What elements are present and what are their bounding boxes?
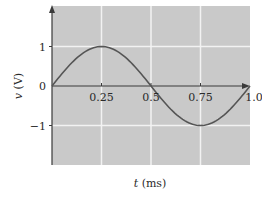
x-tick-label: 0.5 bbox=[142, 91, 160, 104]
y-tick-label: 1 bbox=[39, 41, 46, 54]
x-tick-label: 0.75 bbox=[188, 91, 213, 104]
y-tick-label: −1 bbox=[30, 120, 46, 133]
y-tick-labels: 10−1 bbox=[30, 41, 46, 133]
y-axis-label: v (V) bbox=[12, 73, 25, 99]
x-tick-label: 0.25 bbox=[89, 91, 114, 104]
y-tick-label: 0 bbox=[39, 80, 46, 93]
x-tick-label: 1.0 bbox=[245, 91, 262, 104]
sine-wave-chart: 10−1 0.250.50.751.0 v (V) t (ms) bbox=[0, 0, 262, 199]
x-axis-label: t (ms) bbox=[134, 177, 167, 190]
